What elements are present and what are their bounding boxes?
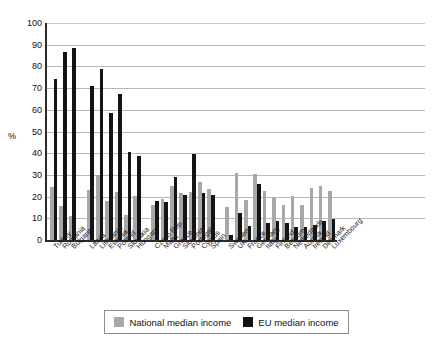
legend-item-national: National median income [114, 317, 231, 328]
bar-group [291, 23, 298, 240]
bar-group [263, 23, 270, 240]
bar-group [170, 23, 177, 240]
y-tick-100: 100 [16, 19, 42, 28]
legend-swatch-eu [243, 317, 253, 327]
y-tick-50: 50 [16, 127, 42, 136]
bar-eu-lithuania [100, 69, 104, 240]
bar-group [225, 23, 232, 240]
bar-eu-portugal [192, 154, 196, 240]
y-axis-tick-labels: 0102030405060708090100 [0, 0, 42, 348]
bar-eu-hungary [137, 156, 141, 240]
legend-label-eu: EU median income [258, 317, 338, 328]
y-tick-80: 80 [16, 62, 42, 71]
bar-group [272, 23, 279, 240]
bar-group [244, 23, 251, 240]
bar-group [151, 23, 158, 240]
bar-group [207, 23, 214, 240]
legend-label-national: National median income [129, 317, 231, 328]
bar-group [189, 23, 196, 240]
legend-swatch-national [114, 317, 124, 327]
bar-eu-turkey [54, 79, 58, 240]
chart-legend: National median income EU median income [104, 310, 349, 334]
y-tick-70: 70 [16, 84, 42, 93]
y-tick-60: 60 [16, 105, 42, 114]
bar-group [179, 23, 186, 240]
bar-group [96, 23, 103, 240]
bar-group [133, 23, 140, 240]
bar-eu-slovakia [128, 152, 132, 240]
y-tick-40: 40 [16, 149, 42, 158]
x-axis-category-labels: TurkeyRomaniaBulgariaLatviaLithuaniaEsto… [46, 243, 426, 303]
bar-eu-latvia [90, 86, 94, 240]
y-tick-90: 90 [16, 40, 42, 49]
bar-eu-estonia [109, 113, 113, 240]
bar-series-area [46, 23, 425, 240]
legend-item-eu: EU median income [243, 317, 338, 328]
bar-eu-poland [118, 94, 122, 240]
y-tick-0: 0 [16, 236, 42, 245]
bar-group [124, 23, 131, 240]
bar-group [105, 23, 112, 240]
bar-group [50, 23, 57, 240]
bar-group [235, 23, 242, 240]
y-tick-20: 20 [16, 192, 42, 201]
bar-group [69, 23, 76, 240]
bar-group [328, 23, 335, 240]
bar-group [310, 23, 317, 240]
bar-eu-romania [63, 52, 67, 240]
bar-group [198, 23, 205, 240]
bar-group [115, 23, 122, 240]
bar-group [253, 23, 260, 240]
chart-container: % 0102030405060708090100 TurkeyRomaniaBu… [0, 0, 444, 348]
y-tick-30: 30 [16, 170, 42, 179]
bar-eu-bulgaria [72, 48, 76, 240]
bar-group [87, 23, 94, 240]
bar-group [300, 23, 307, 240]
bar-group [319, 23, 326, 240]
bar-chart: % 0102030405060708090100 TurkeyRomaniaBu… [0, 0, 444, 348]
bar-group [161, 23, 168, 240]
bar-group [282, 23, 289, 240]
bar-group [59, 23, 66, 240]
y-tick-10: 10 [16, 214, 42, 223]
